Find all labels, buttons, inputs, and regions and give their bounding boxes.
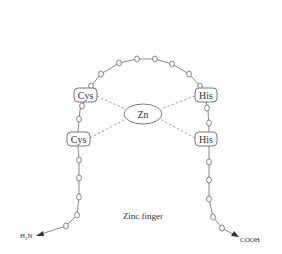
residue-circle bbox=[207, 159, 212, 165]
n-terminus-arrow bbox=[36, 231, 44, 236]
residue-label: Cys bbox=[71, 134, 87, 145]
residue-circle bbox=[207, 196, 212, 202]
residue-his-1: His bbox=[195, 88, 217, 102]
residue-circle bbox=[77, 157, 82, 163]
residue-his-2: His bbox=[195, 132, 217, 146]
residue-circle bbox=[75, 212, 80, 218]
residue-circle bbox=[77, 116, 82, 122]
residue-cys-2: Cys bbox=[67, 132, 90, 146]
residue-cys-1: Cys bbox=[74, 88, 97, 102]
residue-circle bbox=[207, 177, 212, 183]
backbone-chain bbox=[38, 59, 236, 236]
n-terminus-label: H2N bbox=[20, 232, 33, 241]
residue-circle bbox=[77, 194, 82, 200]
residue-circle bbox=[99, 71, 104, 77]
zinc-ion: Zn bbox=[124, 104, 162, 124]
residue-circle bbox=[207, 120, 212, 126]
residue-circle bbox=[153, 56, 158, 62]
zinc-finger-diagram: Zn Cys Cys His His H2N COOH Zinc finger bbox=[0, 0, 282, 254]
residue-circle bbox=[211, 214, 216, 220]
residue-circle bbox=[170, 61, 175, 67]
residue-label: His bbox=[199, 90, 213, 101]
residue-circle bbox=[220, 225, 225, 231]
residue-circle bbox=[135, 56, 140, 62]
residue-circle bbox=[205, 105, 210, 111]
diagram-title: Zinc finger bbox=[123, 211, 163, 221]
residue-label: Cys bbox=[78, 90, 94, 101]
residue-circle bbox=[117, 60, 122, 66]
residue-circle bbox=[77, 175, 82, 181]
c-terminus-label: COOH bbox=[240, 236, 260, 244]
zinc-label: Zn bbox=[137, 109, 148, 120]
residue-label: His bbox=[199, 134, 213, 145]
residue-circle bbox=[187, 71, 192, 77]
residue-circle bbox=[64, 223, 69, 229]
residue-circle bbox=[80, 103, 85, 109]
